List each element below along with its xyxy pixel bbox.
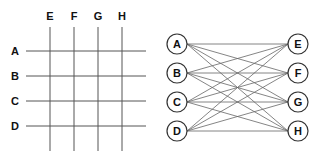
- grid-column-label: F: [71, 10, 78, 22]
- node-label: B: [173, 67, 181, 79]
- grid-row-label: A: [11, 45, 19, 57]
- grid-column-label: E: [46, 10, 53, 22]
- diagram-canvas: EFGHABCDABCDEFGH: [0, 0, 321, 156]
- grid-row-label: C: [11, 95, 19, 107]
- node-label: H: [294, 125, 302, 137]
- node-label: E: [294, 38, 301, 50]
- node-label: D: [173, 125, 181, 137]
- node-label: G: [294, 96, 303, 108]
- node-label: F: [295, 67, 302, 79]
- node-label: A: [173, 38, 181, 50]
- grid-row-label: B: [11, 70, 19, 82]
- grid-row-label: D: [11, 120, 19, 132]
- grid-column-label: G: [94, 10, 103, 22]
- grid-column-label: H: [118, 10, 126, 22]
- diagram-svg: EFGHABCDABCDEFGH: [0, 0, 321, 156]
- node-label: C: [173, 96, 181, 108]
